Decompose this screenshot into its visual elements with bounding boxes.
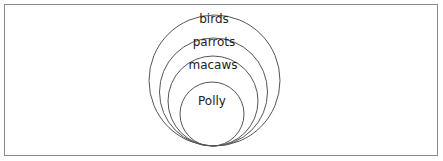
circle-polly [180,82,244,146]
label-polly: Polly [198,95,226,107]
circle-parrots [160,38,268,146]
label-birds: birds [199,13,229,25]
label-macaws: macaws [188,59,237,71]
label-parrots: parrots [193,36,236,48]
